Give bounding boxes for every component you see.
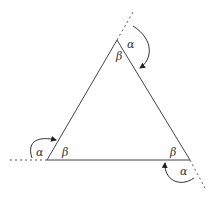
label-top-alpha: α: [127, 38, 135, 51]
triangle-diagram: α β α β β α: [0, 0, 219, 197]
label-top-beta: β: [115, 50, 122, 63]
top-arrow: [133, 26, 149, 68]
label-right-beta: β: [169, 146, 176, 159]
label-left-beta: β: [61, 146, 68, 159]
top-extension: [117, 12, 133, 40]
label-left-alpha: α: [36, 146, 44, 159]
label-right-alpha: α: [180, 165, 188, 178]
right-extension: [190, 160, 206, 190]
